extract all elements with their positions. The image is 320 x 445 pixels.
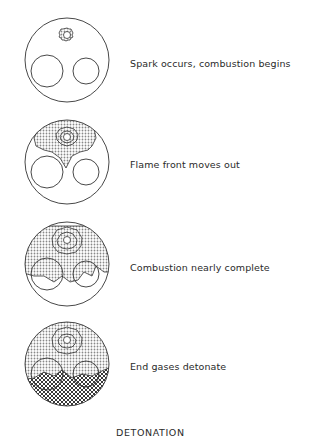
diagram-title: DETONATION	[116, 427, 185, 438]
stage-1-cylinder	[25, 18, 109, 102]
stage-3-label: Combustion nearly complete	[130, 262, 270, 273]
stage-2-label: Flame front moves out	[130, 159, 240, 170]
stage-3-cylinder	[20, 222, 114, 306]
stage-2-cylinder	[25, 118, 109, 204]
stage-4-label: End gases detonate	[130, 361, 226, 372]
stage-4-cylinder	[20, 320, 120, 410]
stage-1-label: Spark occurs, combustion begins	[130, 58, 291, 69]
